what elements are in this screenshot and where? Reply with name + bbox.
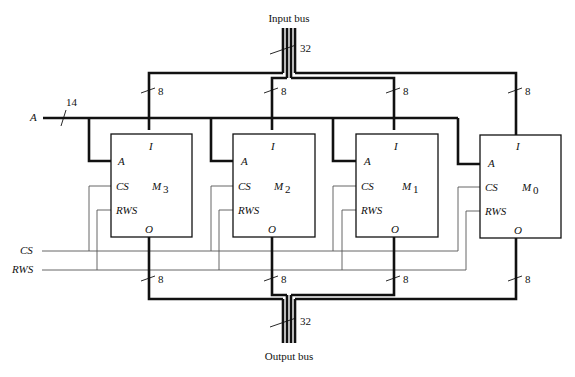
- width-label: 8: [403, 85, 409, 97]
- module-m2: I A CS RWS O M 2: [233, 134, 315, 237]
- address-width: 14: [66, 96, 78, 108]
- module-m3: I A CS RWS O M 3: [111, 134, 192, 237]
- pin-o: O: [268, 223, 276, 235]
- input-bus-width: 32: [300, 42, 311, 54]
- module-index: 1: [413, 183, 419, 195]
- output-bus-width: 32: [300, 315, 311, 327]
- memory-bus-diagram: 32 Input bus 8 8 8 8 A 14 CS RWS: [0, 0, 575, 377]
- pin-o: O: [514, 224, 522, 236]
- width-label: 8: [158, 273, 164, 285]
- pin-a: A: [117, 155, 125, 167]
- pin-a: A: [363, 155, 371, 167]
- pin-cs: CS: [238, 180, 251, 192]
- module-m1: I A CS RWS O M 1: [356, 134, 438, 237]
- output-branches: 8 8 8 8: [141, 237, 531, 299]
- width-label: 8: [403, 273, 409, 285]
- pin-cs: CS: [361, 180, 374, 192]
- width-label: 8: [281, 85, 287, 97]
- pin-cs: CS: [485, 181, 498, 193]
- module-name: M: [273, 180, 284, 192]
- output-bus-label: Output bus: [265, 350, 314, 362]
- rws-label: RWS: [11, 263, 34, 275]
- pin-rws: RWS: [484, 205, 507, 217]
- input-bus-label: Input bus: [268, 12, 309, 24]
- pin-o: O: [391, 223, 399, 235]
- module-index: 0: [533, 184, 539, 196]
- cs-label: CS: [20, 244, 33, 256]
- module-index: 2: [285, 183, 291, 195]
- pin-a: A: [240, 155, 248, 167]
- output-bus: 32 Output bus: [265, 295, 314, 362]
- width-label: 8: [158, 85, 164, 97]
- pin-o: O: [145, 223, 153, 235]
- pin-cs: CS: [116, 180, 129, 192]
- width-label: 8: [281, 273, 287, 285]
- input-bus: 32 Input bus: [268, 12, 311, 78]
- address-label: A: [29, 111, 37, 123]
- module-name: M: [151, 180, 162, 192]
- module-m0: I A CS RWS O M 0: [480, 135, 561, 238]
- pin-rws: RWS: [237, 204, 260, 216]
- width-label: 8: [525, 85, 531, 97]
- module-name: M: [521, 181, 532, 193]
- module-index: 3: [163, 183, 169, 195]
- pin-rws: RWS: [115, 204, 138, 216]
- width-label: 8: [525, 273, 531, 285]
- pin-a: A: [487, 157, 495, 169]
- pin-rws: RWS: [360, 204, 383, 216]
- module-name: M: [401, 180, 412, 192]
- input-branches: 8 8 8 8: [141, 73, 531, 155]
